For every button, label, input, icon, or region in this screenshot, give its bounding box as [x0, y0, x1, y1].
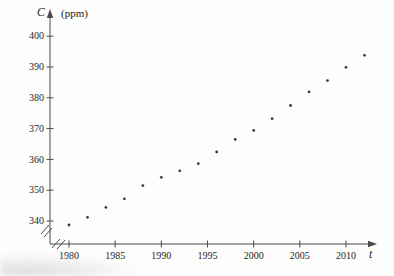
- data-point: [289, 104, 292, 107]
- data-point: [123, 197, 126, 200]
- data-point: [86, 216, 89, 219]
- x-tick-label: 1985: [105, 250, 125, 261]
- y-tick-label: 340: [29, 215, 44, 226]
- y-tick-label: 390: [29, 61, 44, 72]
- data-point: [326, 79, 329, 82]
- chart-canvas: 3403503603703803904001980198519901995200…: [0, 0, 394, 276]
- data-point: [252, 129, 255, 132]
- data-point: [215, 151, 218, 154]
- x-axis-variable-label: t: [369, 249, 372, 261]
- data-point: [197, 162, 200, 165]
- x-tick-label: 2000: [244, 250, 264, 261]
- x-tick-label: 2005: [290, 250, 310, 261]
- y-axis-unit-label: (ppm): [61, 8, 88, 19]
- x-tick-label: 2010: [336, 250, 356, 261]
- y-axis-arrowhead-icon: [47, 9, 53, 18]
- x-tick-label: 1995: [197, 250, 217, 261]
- data-point: [142, 184, 145, 187]
- y-tick-label: 350: [29, 184, 44, 195]
- y-axis-variable-label: C: [37, 7, 45, 19]
- data-point: [105, 206, 108, 209]
- x-axis-arrowhead-icon: [368, 241, 377, 247]
- y-tick-label: 360: [29, 154, 44, 165]
- data-point: [68, 224, 71, 227]
- x-tick-label: 1990: [151, 250, 171, 261]
- data-point: [363, 54, 366, 57]
- data-point: [308, 91, 311, 94]
- data-point: [271, 117, 274, 120]
- data-point: [160, 176, 163, 179]
- co2-concentration-scatter-plot: 3403503603703803904001980198519901995200…: [0, 0, 394, 276]
- data-point: [234, 138, 237, 141]
- data-point: [345, 66, 348, 69]
- x-tick-label: 1980: [59, 250, 79, 261]
- y-tick-label: 400: [29, 30, 44, 41]
- y-tick-label: 380: [29, 92, 44, 103]
- data-point: [178, 169, 181, 172]
- y-tick-label: 370: [29, 123, 44, 134]
